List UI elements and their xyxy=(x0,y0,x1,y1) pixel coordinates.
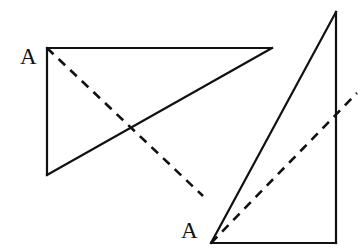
left-dashed-cevian xyxy=(47,48,203,196)
left-triangle-hypotenuse xyxy=(47,48,272,175)
vertex-label-a-right: A xyxy=(181,219,198,242)
figure-canvas xyxy=(0,0,364,252)
right-triangle xyxy=(211,12,336,243)
left-triangle xyxy=(47,48,272,175)
vertex-label-a-left: A xyxy=(20,45,37,68)
geometry-figure: A A xyxy=(0,0,364,252)
right-triangle-right-edge xyxy=(211,12,336,243)
